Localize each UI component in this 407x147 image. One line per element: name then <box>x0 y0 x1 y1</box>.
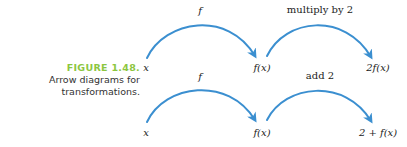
node-x-row1: x <box>143 62 149 73</box>
node-fx-row2: f(x) <box>252 127 270 138</box>
arrow-diagrams: f multiply by 2 x f(x) 2f(x) f add 2 x f… <box>0 0 407 147</box>
arrow-label-f-row2: f <box>197 71 204 82</box>
diagram-row-1: f multiply by 2 x f(x) 2f(x) <box>143 4 390 73</box>
arrow-add-row2 <box>267 91 371 121</box>
arrow-multiply-row1 <box>267 25 371 57</box>
node-2fx: 2f(x) <box>365 62 390 73</box>
arrow-label-f-row1: f <box>197 5 204 16</box>
diagram-row-2: f add 2 x f(x) 2 + f(x) <box>143 70 397 138</box>
arrow-f-row2 <box>147 90 255 122</box>
node-x-row2: x <box>143 127 149 138</box>
arrow-label-multiply: multiply by 2 <box>287 4 353 15</box>
arrow-label-add: add 2 <box>306 70 334 81</box>
node-2-plus-fx: 2 + f(x) <box>358 127 397 138</box>
node-fx-row1: f(x) <box>252 62 270 73</box>
arrow-f-row1 <box>147 25 255 58</box>
